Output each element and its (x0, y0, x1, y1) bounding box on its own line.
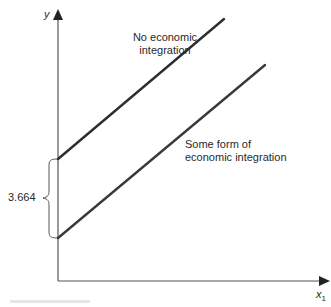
gap-value-text: 3.664 (8, 191, 36, 203)
label-some-integration-line1: Some form of (185, 138, 315, 151)
label-no-integration-line2: integration (120, 44, 210, 57)
x-axis-label: x1 (316, 288, 326, 305)
label-no-integration: No economic integration (120, 31, 210, 57)
label-no-integration-line1: No economic (120, 31, 210, 44)
x-axis-arrow-icon (319, 276, 330, 286)
gap-brace-icon (43, 159, 57, 238)
label-some-integration-line2: economic integration (185, 151, 315, 164)
y-axis-label-text: y (44, 8, 50, 20)
y-axis-label: y (44, 8, 50, 21)
x-axis-subscript: 1 (322, 294, 326, 303)
gap-value-label: 3.664 (8, 191, 36, 204)
label-some-integration: Some form of economic integration (185, 138, 315, 164)
caption-strip (10, 300, 90, 303)
y-axis-arrow-icon (53, 9, 63, 20)
